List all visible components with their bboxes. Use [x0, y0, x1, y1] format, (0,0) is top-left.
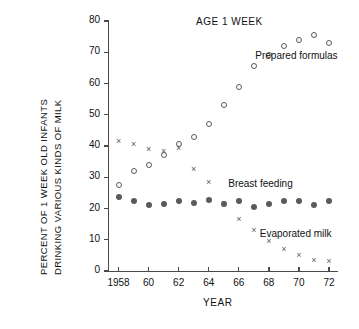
y-tick	[104, 239, 109, 240]
x-tick	[148, 267, 149, 272]
x-tick	[298, 267, 299, 272]
x-tick-label: 72	[309, 277, 349, 288]
data-point-cross: ×	[130, 140, 138, 148]
y-tick	[104, 145, 109, 146]
x-tick	[328, 267, 329, 272]
data-point-cross: ×	[115, 137, 123, 145]
data-point-filled-circle	[281, 198, 287, 204]
y-tick-label: 10	[72, 233, 100, 244]
y-tick-label: 20	[72, 202, 100, 213]
data-point-filled-circle	[206, 197, 212, 203]
y-tick	[104, 52, 109, 53]
data-point-filled-circle	[266, 201, 272, 207]
y-axis-title-line2: DRINKING VARIOUS KINDS OF MILK	[52, 100, 63, 275]
data-point-open-circle	[191, 134, 197, 140]
data-point-open-circle	[296, 37, 302, 43]
data-point-filled-circle	[116, 194, 122, 200]
data-point-filled-circle	[251, 204, 257, 210]
x-tick	[268, 267, 269, 272]
data-point-cross: ×	[325, 257, 333, 265]
data-point-open-circle	[236, 84, 242, 90]
y-tick	[104, 208, 109, 209]
series-label: Breast feeding	[228, 178, 293, 189]
data-point-cross: ×	[145, 145, 153, 153]
data-point-filled-circle	[326, 198, 332, 204]
y-tick	[104, 114, 109, 115]
data-point-cross: ×	[205, 178, 213, 186]
data-point-filled-circle	[161, 201, 167, 207]
data-point-open-circle	[221, 102, 227, 108]
x-tick	[118, 267, 119, 272]
data-point-filled-circle	[131, 198, 137, 204]
y-tick-label: 40	[72, 139, 100, 150]
data-point-cross: ×	[295, 251, 303, 259]
x-tick	[238, 267, 239, 272]
x-tick	[208, 267, 209, 272]
chart-title: AGE 1 WEEK	[196, 16, 263, 27]
y-tick-label: 30	[72, 170, 100, 181]
data-point-open-circle	[251, 63, 257, 69]
data-point-filled-circle	[176, 198, 182, 204]
x-axis-title: YEAR	[203, 297, 233, 308]
y-tick	[104, 83, 109, 84]
y-tick	[104, 177, 109, 178]
series-label: Prepared formulas	[255, 50, 337, 61]
data-point-filled-circle	[191, 200, 197, 206]
y-tick-label: 50	[72, 108, 100, 119]
data-point-filled-circle	[296, 198, 302, 204]
data-point-filled-circle	[311, 202, 317, 208]
data-point-cross: ×	[310, 256, 318, 264]
data-point-cross: ×	[250, 226, 258, 234]
data-point-cross: ×	[220, 199, 228, 207]
data-point-open-circle	[116, 182, 122, 188]
data-point-cross: ×	[235, 215, 243, 223]
data-point-open-circle	[146, 162, 152, 168]
y-tick-label: 80	[72, 14, 100, 25]
data-point-open-circle	[206, 121, 212, 127]
data-point-cross: ×	[160, 147, 168, 155]
data-point-cross: ×	[190, 165, 198, 173]
data-point-filled-circle	[236, 198, 242, 204]
y-tick-label: 0	[72, 264, 100, 275]
y-tick-label: 60	[72, 77, 100, 88]
y-tick	[104, 270, 109, 271]
y-tick	[104, 20, 109, 21]
y-axis-title-line1: PERCENT OF 1 WEEK OLD INFANTS	[38, 99, 49, 275]
chart-container: PERCENT OF 1 WEEK OLD INFANTS DRINKING V…	[0, 0, 359, 329]
data-point-open-circle	[326, 40, 332, 46]
series-label: Evaporated milk	[260, 228, 332, 239]
data-point-open-circle	[281, 43, 287, 49]
x-tick	[178, 267, 179, 272]
x-axis-line	[108, 271, 338, 272]
data-point-filled-circle	[146, 202, 152, 208]
data-point-cross: ×	[280, 245, 288, 253]
data-point-cross: ×	[175, 144, 183, 152]
y-tick-label: 70	[72, 45, 100, 56]
data-point-open-circle	[311, 32, 317, 38]
data-point-open-circle	[131, 168, 137, 174]
